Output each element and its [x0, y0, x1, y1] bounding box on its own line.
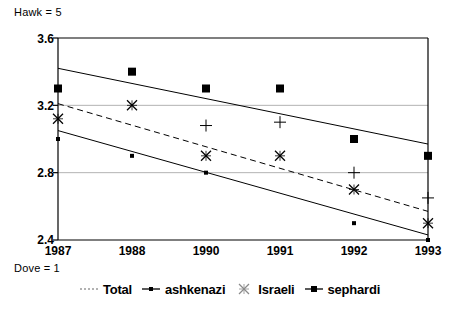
marker-total-1990	[200, 120, 212, 132]
marker-sephardi-1990	[202, 85, 210, 93]
legend-entry-total[interactable]: Total	[79, 282, 132, 297]
legend-label: Total	[103, 282, 132, 297]
legend-entry-israeli[interactable]: Israeli	[234, 282, 294, 297]
marker-ashkenazi-1988	[130, 154, 134, 158]
dove-scale-label: Dove = 1	[14, 262, 60, 274]
marker-israeli-1992	[349, 185, 359, 195]
marker-israeli-1991	[275, 151, 285, 161]
marker-total-1992	[348, 167, 360, 179]
chart-container: Hawk = 5 3.6 3.2 2.8 2.4 1987 1988 1990 …	[0, 0, 459, 311]
legend-marker-x-star-icon	[234, 282, 254, 296]
marker-israeli-1993	[423, 218, 433, 228]
ashkenazi-trend	[58, 131, 428, 235]
marker-israeli-1990	[201, 151, 211, 161]
marker-sephardi-1992	[350, 135, 358, 143]
legend-marker-line-small-square-icon	[141, 282, 161, 296]
chart-legend: TotalashkenaziIsraelisephardi	[0, 278, 459, 300]
legend-marker-line-square-icon	[304, 282, 324, 296]
legend-label: Israeli	[258, 282, 294, 297]
legend-entry-sephardi[interactable]: sephardi	[304, 282, 381, 297]
marker-ashkenazi-1990	[204, 171, 208, 175]
plot-area	[0, 0, 459, 311]
marker-sephardi-1987	[54, 85, 62, 93]
marker-ashkenazi-1993	[426, 238, 430, 242]
legend-label: sephardi	[328, 282, 381, 297]
israeli-trend	[58, 104, 428, 212]
marker-israeli-1988	[127, 100, 137, 110]
legend-label: ashkenazi	[165, 282, 225, 297]
data-markers	[53, 68, 434, 242]
marker-total-1991	[274, 116, 286, 128]
marker-total-1993	[422, 192, 434, 204]
gridlines	[58, 105, 428, 172]
marker-sephardi-1988	[128, 68, 136, 76]
marker-sephardi-1993	[424, 152, 432, 160]
marker-ashkenazi-1987	[56, 137, 60, 141]
legend-marker-dotted-line-icon	[79, 282, 99, 296]
sephardi-trend	[58, 68, 428, 144]
axis-frame	[53, 38, 428, 240]
legend-entry-ashkenazi[interactable]: ashkenazi	[141, 282, 225, 297]
marker-sephardi-1991	[276, 85, 284, 93]
marker-israeli-1987	[53, 114, 63, 124]
trendlines	[58, 68, 428, 235]
marker-ashkenazi-1992	[352, 221, 356, 225]
